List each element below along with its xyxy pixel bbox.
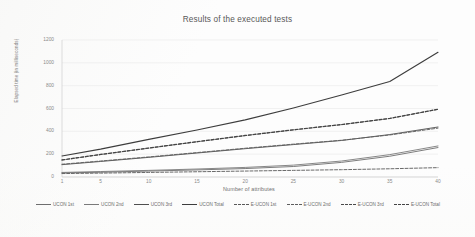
legend-item[interactable]: UCON 3rd	[134, 202, 172, 207]
legend-swatch-icon	[134, 204, 149, 205]
legend-swatch-icon	[36, 204, 51, 205]
legend-swatch-icon	[394, 204, 409, 205]
legend-swatch-icon	[287, 204, 302, 205]
legend-label: E-UCON Total	[411, 202, 440, 207]
legend-item[interactable]: UCON 1st	[36, 202, 74, 207]
legend-label: E-UCON 1st	[251, 202, 277, 207]
legend-item[interactable]: UCON Total	[182, 202, 223, 207]
legend-swatch-icon	[182, 204, 197, 205]
legend-item[interactable]: E-UCON 1st	[234, 202, 277, 207]
series-line	[62, 52, 438, 156]
series-line	[62, 109, 438, 160]
legend-item[interactable]: E-UCON 2nd	[287, 202, 331, 207]
legend-label: UCON 2nd	[101, 202, 123, 207]
legend-item[interactable]: UCON 2nd	[84, 202, 123, 207]
series-line	[62, 128, 438, 164]
chart-legend: UCON 1stUCON 2ndUCON 3rdUCON TotalE-UCON…	[36, 202, 440, 207]
legend-label: UCON 3rd	[151, 202, 172, 207]
series-lines	[62, 52, 438, 173]
legend-swatch-icon	[84, 204, 99, 205]
legend-item[interactable]: E-UCON Total	[394, 202, 440, 207]
legend-swatch-icon	[234, 204, 249, 205]
legend-swatch-icon	[341, 204, 356, 205]
legend-label: UCON Total	[199, 202, 223, 207]
legend-label: E-UCON 3rd	[358, 202, 384, 207]
legend-item[interactable]: E-UCON 3rd	[341, 202, 384, 207]
legend-label: UCON 1st	[53, 202, 74, 207]
legend-label: E-UCON 2nd	[304, 202, 331, 207]
gridlines	[62, 40, 438, 177]
chart-container: Results of the executed tests Elapsed ti…	[0, 0, 475, 237]
